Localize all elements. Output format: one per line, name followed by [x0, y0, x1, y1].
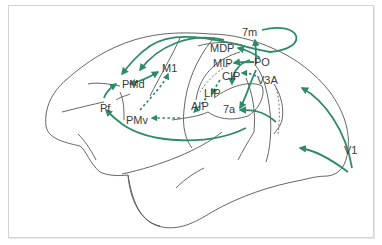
label-PMv: PMv [126, 114, 149, 126]
label-MIP: MIP [213, 57, 233, 69]
label-Pf: Pf [100, 102, 111, 114]
label-M1: M1 [162, 62, 177, 74]
brain-outline [46, 33, 349, 228]
label-LIP: LIP [204, 87, 221, 99]
label-AIP: AIP [191, 100, 209, 112]
label-CIP: CIP [222, 70, 240, 82]
label-MDP: MDP [210, 42, 234, 54]
label-7m: 7m [242, 26, 257, 38]
label-V3A: V3A [257, 74, 278, 86]
label-V1: V1 [344, 144, 357, 156]
label-PO: PO [254, 56, 270, 68]
label-7a: 7a [223, 103, 236, 115]
area-labels: 7m MDP PO MIP CIP V3A LIP AIP 7a M1 PMd … [100, 26, 357, 156]
brain-diagram: 7m MDP PO MIP CIP V3A LIP AIP 7a M1 PMd … [0, 0, 382, 245]
label-PMd: PMd [122, 78, 145, 90]
